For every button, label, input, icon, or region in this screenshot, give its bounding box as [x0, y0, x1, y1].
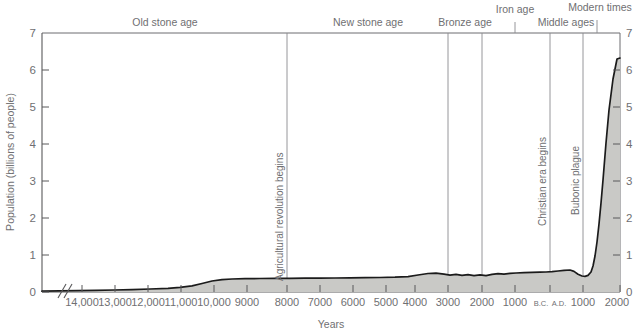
x-tick-label-4000: 4000 [403, 296, 427, 308]
annotation-bubonic-plague: Bubonic plague [570, 146, 581, 215]
y-tick-right-label-3: 3 [626, 175, 632, 187]
y-tick-label-4: 4 [30, 138, 37, 150]
x-tick-label-8000: 8000 [275, 296, 299, 308]
y-tick-right-label-7: 7 [626, 27, 632, 39]
y-tick-label-0: 0 [30, 286, 36, 298]
y-tick-label-7: 7 [30, 27, 36, 39]
era-label-new-stone-age: New stone age [333, 16, 403, 28]
x-axis-tick-labels: 14,000 13,000 12,000 11,000 10,000 9000 … [65, 296, 629, 308]
era-label-modern-times: Modern times [568, 1, 632, 13]
annotation-agricultural-revolution: Agricultural revolution begins [274, 153, 285, 281]
population-area-fill [42, 58, 620, 292]
y-tick-right-label-6: 6 [626, 64, 632, 76]
x-tick-label-7000: 7000 [308, 296, 332, 308]
annotation-christian-era: Christian era begins [537, 137, 548, 226]
x-tick-label-bc-marker: B.C. [534, 299, 549, 308]
axis-titles: Population (billions of people) Years [4, 93, 344, 330]
population-line [42, 58, 620, 291]
y-tick-label-2: 2 [30, 212, 36, 224]
era-divider-group [287, 20, 597, 292]
era-labels: Old stone age New stone age Bronze age I… [132, 1, 632, 28]
x-tick-label-ad-marker: A.D. [552, 299, 567, 308]
plot-frame [42, 33, 620, 292]
plot-annotations: Agricultural revolution begins Christian… [274, 137, 581, 281]
x-tick-label-13000: 13,000 [98, 296, 132, 308]
y-tick-right-label-2: 2 [626, 212, 632, 224]
x-tick-label-6000: 6000 [341, 296, 365, 308]
era-label-middle-ages: Middle ages [538, 16, 595, 28]
y-tick-label-1: 1 [30, 249, 36, 261]
population-series [42, 58, 620, 292]
y-tick-right-label-5: 5 [626, 101, 632, 113]
era-label-old-stone-age: Old stone age [132, 16, 198, 28]
y-tick-right-label-1: 1 [626, 249, 632, 261]
y-tick-label-6: 6 [30, 64, 36, 76]
y-tick-label-5: 5 [30, 101, 36, 113]
y-tick-right-label-4: 4 [626, 138, 633, 150]
x-axis-title: Years [318, 318, 344, 330]
y-axis-ticks-left: 0 1 2 3 4 5 6 7 [30, 27, 49, 298]
x-tick-label-11000: 11,000 [165, 296, 198, 308]
x-tick-label-2000ad: 2000 [605, 296, 629, 308]
x-tick-label-9000: 9000 [235, 296, 259, 308]
population-growth-chart: 0 1 2 3 4 5 6 7 0 1 2 3 4 5 6 7 [0, 0, 643, 336]
x-tick-label-10000: 10,000 [197, 296, 231, 308]
era-label-bronze-age: Bronze age [438, 16, 492, 28]
x-tick-label-1000bc: 1000 [503, 296, 527, 308]
x-tick-label-2000bc: 2000 [470, 296, 494, 308]
x-tick-label-5000: 5000 [374, 296, 398, 308]
y-tick-label-3: 3 [30, 175, 36, 187]
chart-canvas: 0 1 2 3 4 5 6 7 0 1 2 3 4 5 6 7 [0, 0, 643, 336]
x-tick-label-1000ad: 1000 [571, 296, 595, 308]
x-tick-label-3000: 3000 [436, 296, 460, 308]
era-label-iron-age: Iron age [496, 3, 535, 15]
x-tick-label-14000: 14,000 [65, 296, 99, 308]
x-tick-label-12000: 12,000 [131, 296, 165, 308]
y-axis-title: Population (billions of people) [4, 93, 16, 231]
